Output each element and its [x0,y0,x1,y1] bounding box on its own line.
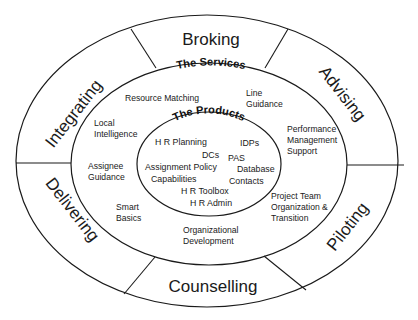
product-pas: PAS [228,153,245,163]
segment-advising: Advising [315,62,370,124]
segment-piloting: Piloting [323,199,372,255]
segment-broking: Broking [182,30,240,49]
segment-counselling: Counselling [169,277,258,296]
product-hr-admin: H R Admin [190,198,232,208]
service-assignee-guidance: Assignee Guidance [88,161,126,182]
divider-integrating-broking [131,29,156,68]
product-database: Database [237,164,275,174]
service-project-team-organization-transition: Project Team Organization & Transition [271,191,330,223]
product-idps: IDPs [240,138,260,148]
segment-integrating: Integrating [41,76,105,151]
service-organizational-development: Organizational Development [183,225,241,246]
product-assignment-policy: Assignment Policy [145,162,217,172]
product-dcs: DCs [202,150,220,160]
segment-delivering: Delivering [42,174,104,245]
service-local-intelligence: Local Intelligence [94,118,138,139]
services-title: The Services [175,55,246,71]
service-line-guidance: Line Guidance [246,88,283,109]
product-contacts: Contacts [229,176,264,186]
service-performance-management-support: Performance Management Support [287,124,340,156]
services-products-diagram: Broking Counselling Integrating Advising… [0,0,418,320]
service-smart-basics: Smart Basics [116,202,141,223]
product-capabilities: Capabilities [151,174,197,184]
products-title: The Products [171,103,248,123]
divider-delivering-counselling [124,257,155,294]
divider-counselling-piloting [264,256,306,290]
product-hr-planning: H R Planning [155,137,207,147]
product-hr-toolbox: H R Toolbox [181,186,229,196]
divider-broking-advising [265,29,288,68]
service-resource-matching: Resource Matching [125,93,199,103]
